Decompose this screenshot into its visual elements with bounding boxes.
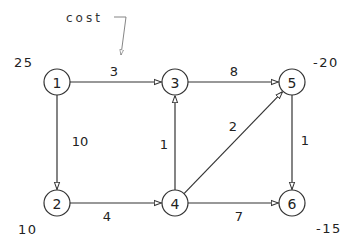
edge-cost-label-4-6: 7 — [235, 209, 243, 224]
edge-cost-label-4-3: 1 — [160, 137, 168, 152]
edges — [57, 82, 292, 203]
network-diagram: cost 310812147 123456 2510-20-15 — [0, 0, 359, 248]
node-2: 2 — [44, 190, 70, 216]
edge-cost-label-2-4: 4 — [103, 209, 111, 224]
edge-cost-label-5-6: 1 — [301, 133, 309, 148]
cost-annotation-label: cost — [66, 11, 103, 25]
edge-cost-label-1-3: 3 — [110, 64, 118, 79]
edge-4-to-5 — [184, 92, 283, 194]
node-supply-label-5: -20 — [313, 55, 339, 70]
edge-cost-labels: 310812147 — [72, 64, 309, 224]
cost-annotation-arrow-icon — [114, 17, 126, 55]
node-supply-label-2: 10 — [18, 222, 38, 237]
node-label: 1 — [53, 75, 62, 91]
node-6: 6 — [279, 190, 305, 216]
cost-annotation: cost — [66, 11, 126, 55]
node-label: 2 — [53, 196, 62, 212]
edge-cost-label-4-5: 2 — [229, 119, 237, 134]
node-3: 3 — [162, 69, 188, 95]
edge-cost-label-3-5: 8 — [230, 64, 238, 79]
node-4: 4 — [162, 190, 188, 216]
edge-cost-label-1-2: 10 — [72, 134, 89, 149]
node-label: 4 — [171, 196, 180, 212]
node-supply-label-6: -15 — [316, 221, 342, 236]
node-label: 6 — [288, 196, 297, 212]
node-1: 1 — [44, 69, 70, 95]
node-5: 5 — [279, 69, 305, 95]
node-label: 3 — [171, 75, 180, 91]
node-supply-label-1: 25 — [14, 55, 34, 70]
node-label: 5 — [288, 75, 297, 91]
